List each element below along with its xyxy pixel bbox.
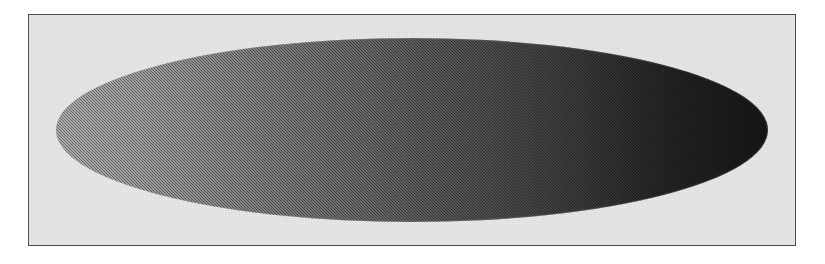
ellipse-gradient-fill: [56, 38, 768, 222]
gradient-ellipse: [56, 38, 768, 222]
framed-plate: [28, 14, 796, 246]
figure-canvas: [0, 0, 825, 264]
